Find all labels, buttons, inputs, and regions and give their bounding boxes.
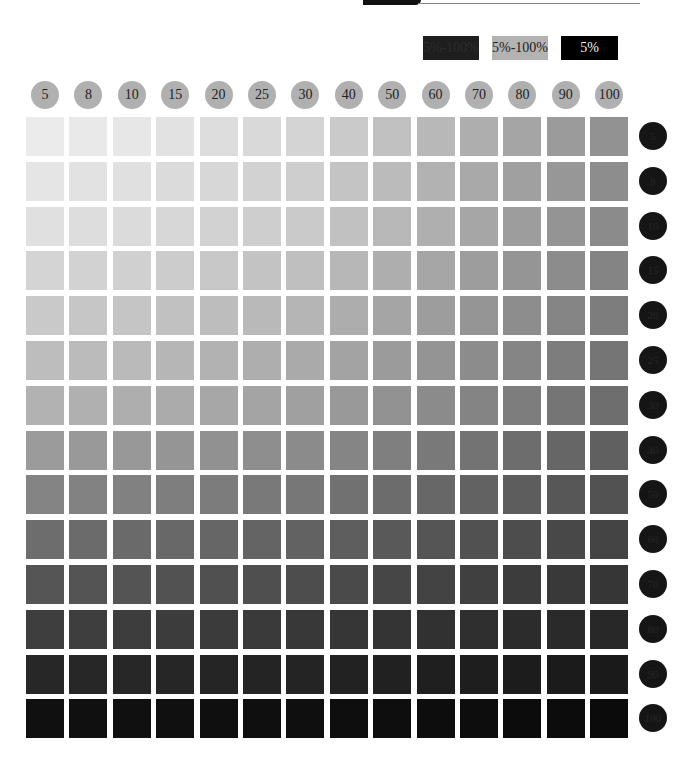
tint-cell [200, 610, 238, 649]
tint-cell [373, 610, 411, 649]
tint-cell [590, 610, 628, 649]
tint-cell [503, 162, 541, 201]
tint-cell [460, 117, 498, 156]
tint-cell [113, 207, 151, 246]
legend-step: 5% [561, 36, 618, 60]
column-header-5: 5 [31, 81, 59, 109]
tint-cell [243, 520, 281, 559]
tint-cell [590, 341, 628, 380]
row-header-25: 25 [639, 346, 667, 374]
tint-cell [113, 655, 151, 694]
tint-cell [69, 520, 107, 559]
tint-cell [113, 475, 151, 514]
tint-cell [113, 341, 151, 380]
tint-cell [547, 565, 585, 604]
tint-cell [243, 386, 281, 425]
tint-cell [200, 296, 238, 335]
tint-cell [156, 475, 194, 514]
tint-cell [243, 610, 281, 649]
tint-cell [156, 117, 194, 156]
tint-cell [69, 207, 107, 246]
tint-cell [243, 117, 281, 156]
tint-cell [330, 251, 368, 290]
row-header-5: 5 [639, 122, 667, 150]
tint-cell [417, 162, 455, 201]
tint-cell [547, 610, 585, 649]
tint-cell [156, 341, 194, 380]
tint-cell [200, 699, 238, 738]
tint-cell [69, 475, 107, 514]
tint-cell [373, 699, 411, 738]
row-header-100: 100 [639, 704, 667, 732]
tint-cell [26, 207, 64, 246]
header-tab [363, 0, 421, 5]
tint-cell [590, 475, 628, 514]
tint-cell [417, 431, 455, 470]
tint-cell [460, 207, 498, 246]
column-header-20: 20 [205, 81, 233, 109]
column-header-30: 30 [291, 81, 319, 109]
tint-cell [460, 565, 498, 604]
tint-cell [503, 386, 541, 425]
tint-cell [200, 520, 238, 559]
tint-cell [590, 655, 628, 694]
tint-cell [200, 251, 238, 290]
tint-cell [373, 386, 411, 425]
tint-cell [69, 117, 107, 156]
tint-cell [590, 117, 628, 156]
tint-cell [373, 475, 411, 514]
column-header-60: 60 [422, 81, 450, 109]
column-header-25: 25 [248, 81, 276, 109]
tint-cell [590, 251, 628, 290]
tint-cell [373, 341, 411, 380]
tint-cell [26, 162, 64, 201]
tint-cell [286, 475, 324, 514]
column-header-8: 8 [74, 81, 102, 109]
tint-cell [417, 699, 455, 738]
tint-cell [156, 386, 194, 425]
tint-cell [200, 162, 238, 201]
tint-cell [503, 520, 541, 559]
tint-cell [330, 162, 368, 201]
tint-cell [26, 117, 64, 156]
tint-cell [547, 207, 585, 246]
tint-cell [243, 655, 281, 694]
tint-cell [243, 699, 281, 738]
tint-cell [69, 699, 107, 738]
tint-cell [200, 341, 238, 380]
tint-cell [330, 341, 368, 380]
tint-cell [547, 296, 585, 335]
tint-cell [330, 699, 368, 738]
tint-cell [156, 610, 194, 649]
tint-cell [69, 162, 107, 201]
tint-cell [460, 162, 498, 201]
tint-cell [503, 565, 541, 604]
tint-cell [547, 520, 585, 559]
tint-cell [286, 296, 324, 335]
tint-cell [373, 520, 411, 559]
row-header-70: 70 [639, 570, 667, 598]
tint-cell [417, 386, 455, 425]
tint-cell [460, 655, 498, 694]
tint-cell [200, 386, 238, 425]
tint-cell [330, 610, 368, 649]
tint-cell [330, 655, 368, 694]
tint-cell [26, 655, 64, 694]
tint-cell [503, 117, 541, 156]
tint-cell [69, 251, 107, 290]
tint-cell [460, 699, 498, 738]
tint-cell [200, 565, 238, 604]
tint-cell [330, 117, 368, 156]
tint-cell [590, 565, 628, 604]
column-header-50: 50 [378, 81, 406, 109]
tint-cell [590, 162, 628, 201]
tint-cell [69, 296, 107, 335]
tint-cell [547, 251, 585, 290]
tint-cell [460, 296, 498, 335]
tint-cell [373, 162, 411, 201]
tint-cell [113, 610, 151, 649]
tint-cell [547, 162, 585, 201]
tint-cell [286, 162, 324, 201]
tint-cell [113, 117, 151, 156]
row-header-80: 80 [639, 615, 667, 643]
